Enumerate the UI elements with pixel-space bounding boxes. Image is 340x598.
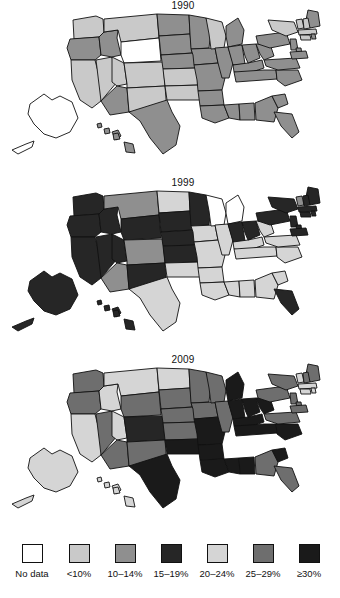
state-tn bbox=[234, 70, 277, 82]
state-hi-island-1 bbox=[97, 123, 102, 128]
state-hi-island-4 bbox=[124, 142, 135, 153]
legend-item: 15–19% bbox=[148, 544, 194, 579]
state-ne bbox=[161, 53, 196, 69]
us-choropleth-2009 bbox=[0, 362, 340, 531]
state-md bbox=[290, 405, 308, 413]
legend-swatch bbox=[22, 544, 43, 563]
state-hi-island-4 bbox=[124, 496, 135, 507]
legend-swatch bbox=[253, 544, 274, 563]
state-hi-island-2 bbox=[104, 128, 110, 134]
state-wa bbox=[73, 193, 104, 216]
state-sd bbox=[159, 388, 192, 409]
state-md bbox=[290, 228, 308, 236]
state-al bbox=[239, 103, 255, 120]
state-sd bbox=[159, 34, 192, 55]
state-or bbox=[67, 391, 101, 414]
state-sd bbox=[159, 211, 192, 232]
state-hi-island-2 bbox=[104, 305, 110, 311]
state-ne bbox=[161, 407, 196, 423]
state-hi-island-2 bbox=[104, 482, 110, 488]
state-ak bbox=[28, 94, 78, 138]
state-co bbox=[124, 239, 165, 265]
state-fl bbox=[274, 289, 299, 315]
state-ct bbox=[300, 35, 311, 40]
state-co bbox=[124, 416, 165, 442]
state-wa bbox=[73, 370, 104, 393]
state-nd bbox=[157, 368, 190, 390]
state-tn bbox=[234, 424, 277, 436]
us-choropleth-1990 bbox=[0, 8, 340, 177]
state-mi bbox=[226, 372, 244, 401]
legend: No data<10%10–14%15–19%20–24%25–29%≥30% bbox=[0, 544, 340, 596]
state-id bbox=[99, 30, 121, 57]
legend-swatch bbox=[161, 544, 182, 563]
state-mi bbox=[226, 195, 244, 224]
state-nc bbox=[276, 424, 302, 440]
state-wa bbox=[73, 16, 104, 39]
legend-item: <10% bbox=[56, 544, 102, 579]
state-ak-aleutians bbox=[12, 141, 34, 154]
state-fl bbox=[274, 112, 299, 138]
panel-title-1999: 1999 bbox=[0, 177, 340, 188]
state-hi-island-1 bbox=[97, 477, 102, 482]
legend-swatch bbox=[69, 544, 90, 563]
state-fl bbox=[274, 466, 299, 492]
legend-item: 25–29% bbox=[240, 544, 286, 579]
state-al bbox=[239, 457, 255, 474]
obesity-map-figure: 1990 1999 2009 No data<10%10–14%15–19%20… bbox=[0, 0, 340, 598]
state-ar bbox=[198, 267, 224, 283]
state-id bbox=[99, 384, 121, 411]
state-wy bbox=[121, 392, 161, 417]
state-va bbox=[264, 58, 300, 70]
state-ar bbox=[198, 90, 224, 106]
state-ri bbox=[311, 34, 316, 39]
map-panel-2009: 2009 bbox=[0, 354, 340, 531]
state-ct bbox=[300, 389, 311, 394]
state-nd bbox=[157, 191, 190, 213]
legend-label: 20–24% bbox=[200, 568, 235, 579]
us-choropleth-1999 bbox=[0, 185, 340, 354]
legend-label: 25–29% bbox=[246, 568, 281, 579]
state-ct bbox=[300, 212, 311, 217]
state-id bbox=[99, 207, 121, 234]
state-ks bbox=[163, 68, 198, 86]
state-va bbox=[264, 235, 300, 247]
state-nd bbox=[157, 14, 190, 36]
state-ak bbox=[28, 448, 78, 492]
legend-item: 20–24% bbox=[194, 544, 240, 579]
legend-item: No data bbox=[8, 544, 56, 579]
state-ks bbox=[163, 245, 198, 263]
state-mi bbox=[226, 18, 244, 47]
state-ak bbox=[28, 271, 78, 315]
state-ne bbox=[161, 230, 196, 246]
legend-label: 10–14% bbox=[108, 568, 143, 579]
legend-label: No data bbox=[15, 568, 48, 579]
state-ia bbox=[191, 402, 218, 419]
state-co bbox=[124, 62, 165, 88]
state-or bbox=[67, 214, 101, 237]
legend-item: ≥30% bbox=[286, 544, 332, 579]
legend-label: ≥30% bbox=[297, 568, 321, 579]
legend-swatch bbox=[115, 544, 136, 563]
legend-label: <10% bbox=[67, 568, 92, 579]
state-ri bbox=[311, 211, 316, 216]
state-ia bbox=[191, 48, 218, 65]
state-md bbox=[290, 51, 308, 59]
panel-title-2009: 2009 bbox=[0, 354, 340, 365]
state-wy bbox=[121, 215, 161, 240]
state-ia bbox=[191, 225, 218, 242]
state-ak-aleutians bbox=[12, 318, 34, 331]
legend-swatch bbox=[207, 544, 228, 563]
panel-title-1990: 1990 bbox=[0, 0, 340, 11]
state-nc bbox=[276, 70, 302, 86]
state-ar bbox=[198, 444, 224, 460]
state-ri bbox=[311, 388, 316, 393]
state-ak-aleutians bbox=[12, 495, 34, 508]
state-hi-island-1 bbox=[97, 300, 102, 305]
state-wy bbox=[121, 38, 161, 63]
legend-swatch bbox=[299, 544, 320, 563]
legend-item: 10–14% bbox=[102, 544, 148, 579]
map-panel-1999: 1999 bbox=[0, 177, 340, 354]
state-hi-island-4 bbox=[124, 319, 135, 330]
map-panel-1990: 1990 bbox=[0, 0, 340, 177]
